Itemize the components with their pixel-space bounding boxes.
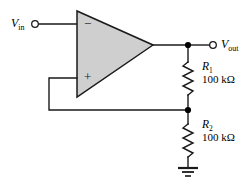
circuit-schematic-canvas	[0, 0, 251, 185]
v-out-label-sub: out	[228, 44, 238, 53]
v-in-label: Vin	[11, 17, 25, 33]
resistor-r2-symbol	[183, 124, 193, 157]
v-out-terminal-circle	[210, 42, 217, 49]
inverting-input-sign: −	[84, 17, 91, 30]
v-out-label: Vout	[221, 38, 239, 54]
resistor-r1-name: R	[202, 60, 209, 72]
resistor-r2-value: 100 kΩ	[202, 132, 235, 144]
junction-node-divider	[185, 107, 191, 113]
opamp-circuit-diagram: Vin Vout R1 100 kΩ R2 100 kΩ − +	[0, 0, 251, 185]
noninverting-input-sign: +	[84, 70, 91, 83]
wire-feedback-path	[49, 78, 188, 110]
v-in-label-sub: in	[18, 23, 24, 32]
resistor-r2-name: R	[202, 118, 209, 130]
v-in-terminal-circle	[32, 21, 39, 28]
junction-node-output	[185, 42, 191, 48]
resistor-r1-value: 100 kΩ	[202, 74, 235, 86]
resistor-r1-symbol	[183, 62, 193, 95]
